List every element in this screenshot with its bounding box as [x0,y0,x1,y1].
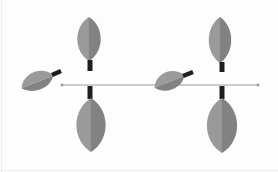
upper-leaf-petiole [220,62,225,72]
leaf-blade-right-half [91,98,106,152]
lower-leaf [76,98,105,152]
side-leaf-petiole [52,71,61,75]
leaf-arrangement-diagram [0,0,278,172]
leaf-blade-left-half [77,17,89,61]
axis-end-dot-left [61,84,64,87]
lower-leaf-petiole [220,86,225,99]
leaf-blade-right-half [222,98,237,153]
side-leaf-petiole [183,72,193,76]
lower-leaf-petiole [88,86,93,99]
upper-leaf-petiole [88,60,93,71]
upper-leaf [209,17,231,63]
leaf-blade-left-half [76,98,91,152]
leaf-blade-right-half [89,17,101,61]
diagram-canvas [0,0,278,172]
leaf-blade-left-half [207,98,222,153]
side-leaf [18,67,56,95]
lower-leaf [207,98,237,153]
leaf-blade-left-half [209,17,220,63]
leaf-blade-right-half [220,17,231,63]
axis-end-dot-right [257,84,260,87]
upper-leaf [77,17,100,61]
side-leaf [151,67,187,94]
